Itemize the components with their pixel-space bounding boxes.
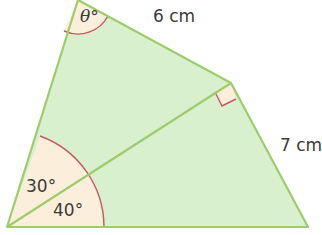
diagram-svg (0, 0, 322, 235)
label-theta: θ° (80, 8, 99, 25)
label-angle-40: 40° (53, 202, 83, 219)
label-angle-30: 30° (26, 178, 56, 195)
label-side-right: 7 cm (280, 137, 322, 154)
label-side-top: 6 cm (153, 8, 195, 25)
geometry-diagram: θ° 6 cm 7 cm 30° 40° (0, 0, 322, 235)
